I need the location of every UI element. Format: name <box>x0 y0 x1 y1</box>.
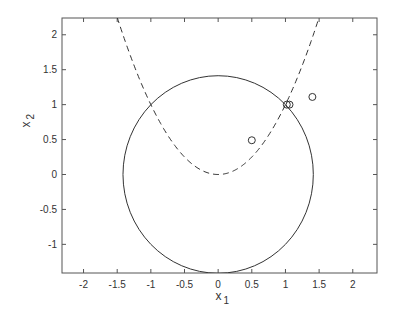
y-tick-label: -1 <box>48 239 57 250</box>
x-tick-label: -0.5 <box>176 279 194 290</box>
data-point-marker <box>309 93 316 100</box>
data-point-marker <box>248 137 255 144</box>
x-axis-label: x <box>216 289 222 303</box>
x-tick-label: 1.5 <box>312 279 326 290</box>
x-tick-label: -1 <box>146 279 155 290</box>
x-tick-label: 0.5 <box>245 279 259 290</box>
y-axis-label-group: x2 <box>19 114 36 128</box>
chart: -2-1.5-1-0.500.511.52-1-0.500.511.52x1x2 <box>0 0 395 324</box>
x-tick-label: -2 <box>79 279 88 290</box>
x-axis-label-sub: 1 <box>224 295 230 306</box>
y-tick-label: 0.5 <box>43 134 57 145</box>
x-tick-label: 1 <box>283 279 289 290</box>
y-tick-label: 2 <box>51 29 57 40</box>
parabola-curve <box>117 17 319 174</box>
plot-area <box>117 17 319 273</box>
y-axis-label: x <box>19 122 33 128</box>
y-tick-label: -0.5 <box>40 204 58 215</box>
y-tick-label: 1 <box>51 99 57 110</box>
x-tick-label: -1.5 <box>109 279 127 290</box>
y-axis-label-sub: 2 <box>25 114 36 120</box>
axes-box <box>62 18 377 273</box>
x-tick-label: 2 <box>350 279 356 290</box>
y-tick-label: 0 <box>51 169 57 180</box>
y-tick-label: 1.5 <box>43 64 57 75</box>
